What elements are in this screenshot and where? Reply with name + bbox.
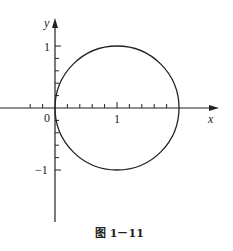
x-ticks [30,102,166,108]
y-tick-label-neg1: −1 [35,163,48,177]
x-axis-label: x [207,112,214,126]
y-axis-label: y [43,16,50,30]
origin-label: 0 [44,111,50,125]
y-axis-arrow-icon [52,18,58,28]
circle-plot: y 1 0 1 x −1 图 1－11 [0,0,233,251]
x-axis-arrow-icon [209,105,219,111]
y-tick-label-1: 1 [44,40,50,54]
x-tick-label-1: 1 [114,112,120,126]
figure-caption: 图 1－11 [95,227,144,240]
